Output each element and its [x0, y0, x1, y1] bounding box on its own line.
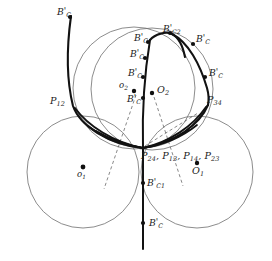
figure-root: B'C B'C B'C B'C B'C B'C2 B'C B'C B'C1 B'…	[0, 0, 272, 261]
curve-left-inner-lens	[75, 108, 143, 148]
thin-arc-left-b	[74, 107, 143, 148]
label-bc-upper-3: B'C	[128, 68, 142, 79]
thin-arc-left-a	[74, 107, 143, 148]
label-bc1: B'C1	[147, 178, 165, 189]
label-bc-upper-1: B'C	[134, 33, 148, 44]
dot-bc-bottom	[141, 221, 145, 225]
label-bc-bottom: B'C	[149, 218, 163, 229]
label-p-cluster: P24, P13, P14, P23	[141, 151, 220, 162]
dot-bc-right-top	[191, 42, 195, 46]
label-bc-right-top: B'C	[196, 34, 210, 45]
curve-apex-loop	[150, 33, 185, 57]
label-o1-small: o1	[77, 170, 86, 180]
label-bc-center: B'C	[127, 94, 141, 105]
dot-bc-right-mid	[203, 75, 207, 79]
dot-center-o2-big	[150, 91, 154, 95]
label-bc-top-left: B'C	[57, 7, 71, 18]
dot-bc1	[141, 181, 145, 185]
label-bc-upper-2: B'C	[130, 49, 144, 60]
dot-bc-center	[141, 96, 145, 100]
label-p12: P12	[50, 96, 65, 107]
label-bc-apex: B'C2	[163, 24, 181, 35]
label-bc-right-mid: B'C	[209, 68, 223, 79]
label-o2-big: O2	[157, 85, 169, 96]
label-o2-small: o2	[119, 81, 128, 91]
label-p34: P34	[207, 95, 222, 106]
label-o1-big: O1	[192, 166, 204, 177]
